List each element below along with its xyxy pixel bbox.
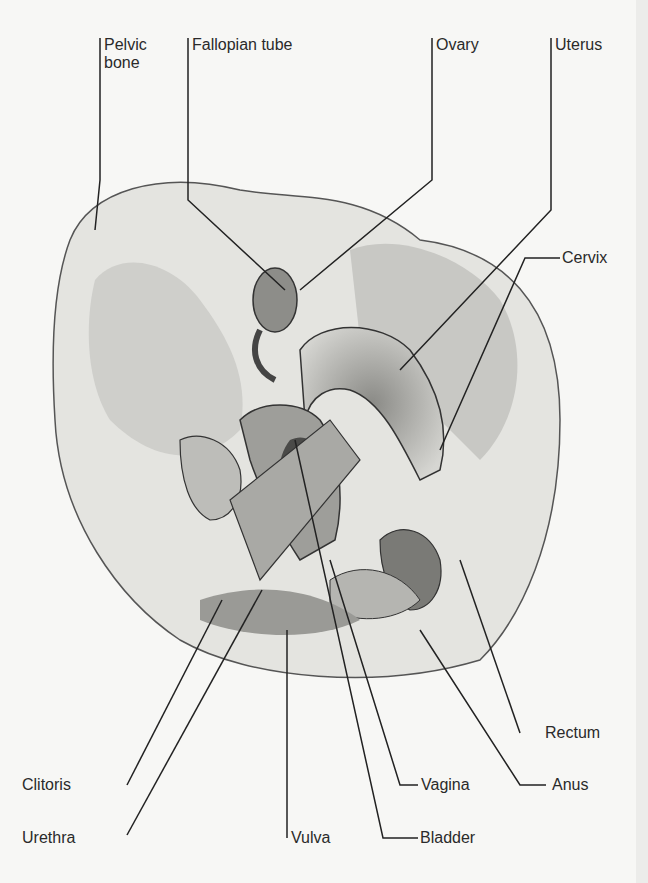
anatomy-illustration — [0, 0, 648, 883]
label-rectum: Rectum — [545, 724, 600, 742]
label-uterus: Uterus — [555, 36, 602, 54]
label-anus: Anus — [552, 776, 588, 794]
label-cervix: Cervix — [562, 249, 607, 267]
label-pelvic-bone: Pelvic bone — [104, 36, 147, 72]
label-fallopian-tube: Fallopian tube — [192, 36, 293, 54]
label-vagina: Vagina — [421, 776, 470, 794]
label-ovary: Ovary — [436, 36, 479, 54]
label-vulva: Vulva — [291, 829, 330, 847]
label-urethra: Urethra — [22, 829, 75, 847]
label-clitoris: Clitoris — [22, 776, 71, 794]
label-bladder: Bladder — [420, 829, 475, 847]
